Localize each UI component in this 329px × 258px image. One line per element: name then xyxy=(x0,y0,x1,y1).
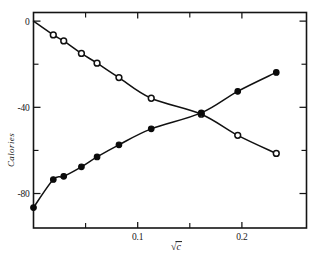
data-point-open xyxy=(148,95,154,101)
data-point-open xyxy=(50,32,56,38)
data-point-filled xyxy=(273,70,279,76)
axis-ticks xyxy=(34,13,307,229)
plot-frame xyxy=(34,13,307,229)
x-axis-title-text: √c xyxy=(171,241,181,252)
y-tick-label: -40 xyxy=(17,103,30,113)
figure-container: 0-40-800.10.2 Calories √c xyxy=(0,0,329,258)
x-tick-label: 0.2 xyxy=(236,232,248,242)
scatter-plot: 0-40-800.10.2 Calories √c xyxy=(0,0,329,258)
data-point-filled xyxy=(198,110,204,116)
data-point-filled xyxy=(51,177,57,183)
data-point-filled xyxy=(94,154,100,160)
y-axis-title: Calories xyxy=(6,133,16,167)
data-point-filled xyxy=(31,205,37,211)
y-tick-label: 0 xyxy=(25,17,30,27)
data-series-group xyxy=(31,21,279,210)
data-point-open xyxy=(94,60,100,66)
data-point-filled xyxy=(79,164,85,170)
x-axis-title: √c xyxy=(171,241,182,252)
data-point-open xyxy=(235,132,241,138)
y-axis-title-text: Calories xyxy=(6,133,16,167)
y-tick-label: -80 xyxy=(17,189,30,199)
data-point-open xyxy=(273,151,279,157)
tick-labels-group: 0-40-800.10.2 xyxy=(17,17,248,242)
data-point-filled xyxy=(61,173,67,179)
data-point-filled xyxy=(148,126,154,132)
data-point-filled xyxy=(116,142,122,148)
data-point-filled xyxy=(235,89,241,95)
x-tick-label: 0.1 xyxy=(132,232,144,242)
data-point-open xyxy=(79,51,85,57)
data-point-open xyxy=(116,75,122,81)
axes-box xyxy=(34,13,307,229)
data-point-open xyxy=(61,38,67,44)
